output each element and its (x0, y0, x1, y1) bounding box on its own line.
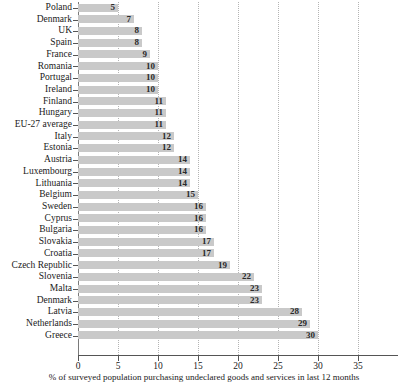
x-axis-title: % of surveyed population purchasing unde… (0, 372, 408, 382)
bar-value-label: 7 (78, 14, 131, 26)
category-label: Malta (50, 283, 72, 295)
category-label: Poland (46, 2, 72, 14)
category-label: Portugal (40, 72, 72, 84)
bar-value-label: 15 (78, 189, 195, 201)
bar-value-label: 11 (78, 119, 163, 131)
bar-value-label: 16 (78, 213, 203, 225)
bar-row: 17 (78, 248, 398, 260)
bar-value-label: 22 (78, 271, 251, 283)
bar-value-label: 17 (78, 248, 211, 260)
bar-value-label: 9 (78, 49, 147, 61)
bar-value-label: 30 (78, 330, 315, 342)
bar-value-label: 14 (78, 178, 187, 190)
plot-area: 5788910101011111112121414141516161617171… (78, 2, 398, 355)
bar-row: 11 (78, 107, 398, 119)
category-label: UK (58, 25, 72, 37)
bar-rows: 5788910101011111112121414141516161617171… (78, 2, 398, 355)
category-label: Slovenia (39, 271, 72, 283)
bar-row: 10 (78, 61, 398, 73)
bar-value-label: 8 (78, 25, 139, 37)
category-label: Italy (55, 131, 72, 143)
category-label: EU-27 average (15, 119, 72, 131)
category-label: Greece (45, 330, 72, 342)
bar-row: 14 (78, 166, 398, 178)
bar-row: 15 (78, 189, 398, 201)
bar-row: 28 (78, 306, 398, 318)
x-axis-tick-label: 30 (303, 361, 333, 371)
bar-row: 14 (78, 178, 398, 190)
bar-value-label: 10 (78, 61, 155, 73)
category-label: Hungary (39, 107, 72, 119)
bar-row: 16 (78, 213, 398, 225)
bar-row: 12 (78, 131, 398, 143)
bar-value-label: 10 (78, 72, 155, 84)
bar-row: 12 (78, 142, 398, 154)
bar-row: 8 (78, 25, 398, 37)
category-label: Sweden (42, 201, 72, 213)
bar-value-label: 11 (78, 96, 163, 108)
bar-value-label: 17 (78, 236, 211, 248)
bar-value-label: 19 (78, 260, 227, 272)
category-label: Finland (43, 96, 72, 108)
category-label: Latvia (48, 306, 72, 318)
bar-row: 8 (78, 37, 398, 49)
bar-row: 7 (78, 14, 398, 26)
bar-row: 29 (78, 318, 398, 330)
bar-value-label: 5 (78, 2, 115, 14)
category-label: Cyprus (45, 213, 72, 225)
category-label: Netherlands (26, 318, 72, 330)
category-label: Bulgaria (39, 224, 72, 236)
bar-row: 23 (78, 283, 398, 295)
bar-row: 19 (78, 260, 398, 272)
category-label: Ireland (45, 84, 72, 96)
bar-value-label: 16 (78, 201, 203, 213)
bar-row: 10 (78, 84, 398, 96)
bar-value-label: 14 (78, 154, 187, 166)
category-label: Croatia (44, 248, 72, 260)
bar-row: 14 (78, 154, 398, 166)
category-axis-labels: PolandDenmarkUKSpainFranceRomaniaPortuga… (0, 2, 72, 355)
x-axis-tick-label: 15 (183, 361, 213, 371)
x-axis-tick-label: 5 (103, 361, 133, 371)
x-axis-tick-label: 0 (63, 361, 93, 371)
bar-row: 16 (78, 201, 398, 213)
bar-row: 5 (78, 2, 398, 14)
bar-value-label: 16 (78, 224, 203, 236)
category-label: Czech Republic (12, 260, 72, 272)
bar-row: 23 (78, 295, 398, 307)
bar-value-label: 14 (78, 166, 187, 178)
bar-value-label: 8 (78, 37, 139, 49)
bar-value-label: 11 (78, 107, 163, 119)
bar-row: 9 (78, 49, 398, 61)
bar-value-label: 12 (78, 131, 171, 143)
bar-row: 16 (78, 224, 398, 236)
category-label: Denmark (37, 295, 72, 307)
bar-value-label: 23 (78, 295, 259, 307)
x-axis-tick-label: 35 (343, 361, 373, 371)
bar-row: 30 (78, 330, 398, 342)
bar-value-label: 28 (78, 306, 299, 318)
bar-row: 10 (78, 72, 398, 84)
bar-row: 11 (78, 96, 398, 108)
category-label: Spain (50, 37, 72, 49)
bar-value-label: 29 (78, 318, 307, 330)
bar-row: 22 (78, 271, 398, 283)
category-label: Belgium (39, 189, 72, 201)
bar-row: 11 (78, 119, 398, 131)
bar-value-label: 10 (78, 84, 155, 96)
category-label: Lithuania (36, 178, 72, 190)
x-axis-tick-label: 20 (223, 361, 253, 371)
category-label: Estonia (44, 142, 73, 154)
category-label: Slovakia (39, 236, 72, 248)
bar-row: 17 (78, 236, 398, 248)
category-label: Luxembourg (23, 166, 72, 178)
bar-value-label: 23 (78, 283, 259, 295)
x-axis-tick-label: 10 (143, 361, 173, 371)
bar-chart: PolandDenmarkUKSpainFranceRomaniaPortuga… (0, 0, 408, 384)
category-label: Denmark (37, 14, 72, 26)
x-axis-tick-label: 25 (263, 361, 293, 371)
bar-value-label: 12 (78, 142, 171, 154)
category-label: France (46, 49, 72, 61)
category-label: Romania (38, 61, 72, 73)
category-label: Austria (44, 154, 72, 166)
